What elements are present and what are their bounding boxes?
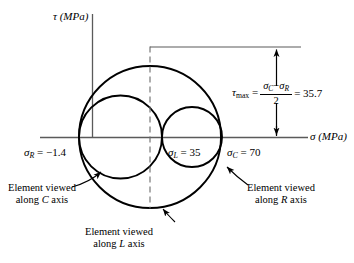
annotation-L-line2: along L axis [85,238,153,250]
annotation-C-line1: Element viewed [8,182,76,194]
annotation-R-line2-pre: along [255,194,281,205]
sigma-R-value: = −1.4 [37,146,66,158]
annotation-C-line2-pre: along [16,194,42,205]
tau-max-denominator: 2 [260,95,292,107]
annotation-L-line2-post: axis [125,238,145,249]
leader-line-R [227,167,248,185]
sigma-R-subscript: R [29,151,34,160]
tau-axis-label: τ (MPa) [53,10,88,22]
tau-max-numerator: σC−σR [260,80,292,95]
annotation-L-line1: Element viewed [85,226,153,238]
sigma-C-label: σC = 70 [227,146,260,161]
sigma-R-label: σR = −1.4 [24,146,66,161]
annotation-C-axis: Element viewed along C axis [8,182,76,206]
sigma-C-subscript: C [232,151,237,160]
mohr-circle-canvas [0,0,354,263]
annotation-L-line2-pre: along [93,238,119,249]
annotation-L-axis: Element viewed along L axis [85,226,153,250]
annotation-R-line2: along R axis [247,194,315,206]
leader-line-L [163,209,175,222]
sigma-L-label: σL = 35 [168,146,201,161]
tau-axis-label-text: τ (MPa) [53,10,88,22]
tau-max-equation: τmax = σC−σR2= 35.7 [232,80,322,106]
sigma-axis-label: σ (MPa) [310,130,347,142]
sigma-axis-label-text: σ (MPa) [310,130,347,142]
annotation-C-line2-post: axis [49,194,69,205]
tau-max-subscript: max [236,91,249,100]
annotation-R-line2-post: axis [287,194,307,205]
annotation-C-line2: along C axis [8,194,76,206]
numerator-sigma-R-sub: R [285,84,290,93]
sigma-L-subscript: L [173,151,177,160]
sigma-L-value: = 35 [181,146,201,158]
sigma-C-value: = 70 [240,146,260,158]
mohr-circle-figure: τ (MPa) σ (MPa) σR = −1.4 σL = 35 σC = 7… [0,0,354,263]
tau-max-fraction: σC−σR2 [260,80,292,106]
annotation-R-axis: Element viewed along R axis [247,182,315,206]
tau-max-equals: = [252,86,258,98]
annotation-C-axis-var: C [42,194,49,205]
tau-max-result: = 35.7 [294,87,322,99]
annotation-R-line1: Element viewed [247,182,315,194]
